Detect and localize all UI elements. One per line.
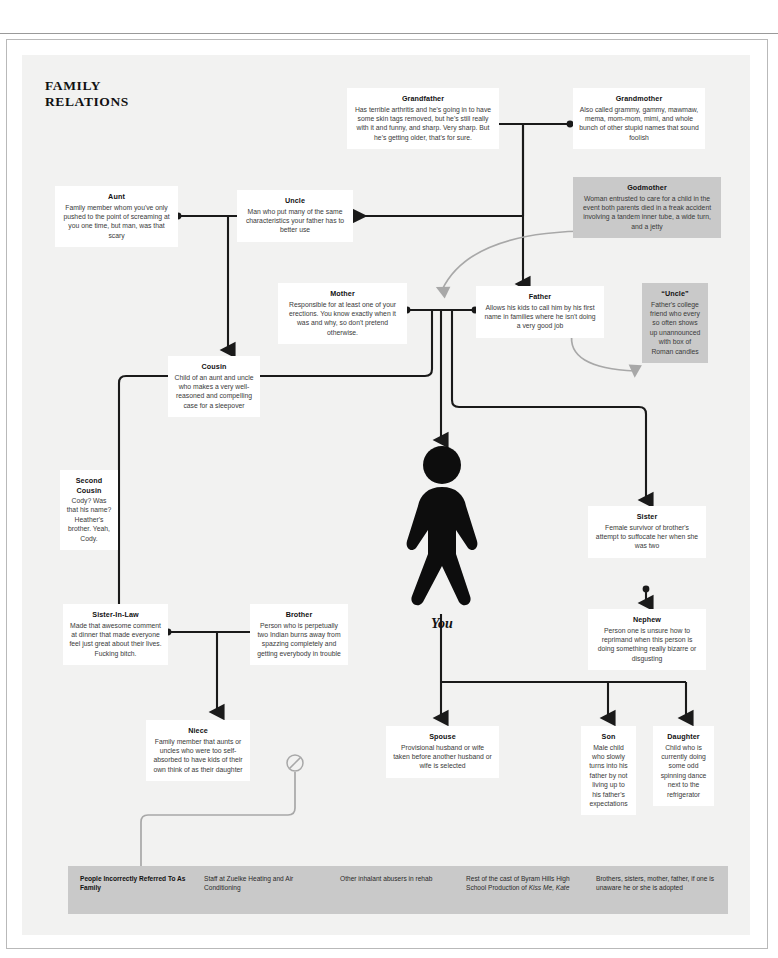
node-sister[interactable]: Sister Female survivor of brother's atte… [588, 506, 706, 558]
legend-bar: People Incorrectly Referred To As Family… [68, 866, 728, 914]
node-desc: Child who is currently doing some odd sp… [659, 743, 708, 799]
node-father[interactable]: Father Allows his kids to call him by hi… [476, 286, 604, 338]
node-godmother[interactable]: Godmother Woman entrusted to care for a … [573, 177, 721, 238]
node-spouse[interactable]: Spouse Provisional husband or wife taken… [386, 726, 499, 778]
node-title: Niece [152, 726, 244, 736]
node-daughter[interactable]: Daughter Child who is currently doing so… [653, 726, 714, 806]
node-desc: Woman entrusted to care for a child in t… [579, 194, 715, 232]
page-title: FAMILYRELATIONS [45, 78, 129, 109]
node-title: “Uncle” [648, 289, 702, 299]
legend-item-1: Other inhalant abusers in rehab [340, 874, 460, 883]
node-title: Grandfather [353, 94, 493, 104]
node-brother[interactable]: Brother Person who is perpetually two In… [250, 604, 348, 665]
node-title: Spouse [392, 732, 493, 742]
node-desc: Made that awesome comment at dinner that… [69, 621, 162, 659]
center-label: You [398, 616, 486, 632]
node-uncle[interactable]: Uncle Man who put many of the same chara… [237, 190, 353, 242]
node-desc: Also called grammy, gammy, mawmaw, mema,… [579, 105, 699, 143]
node-desc: Child of an aunt and uncle who makes a v… [174, 373, 254, 411]
node-title: Aunt [61, 192, 172, 202]
infographic-page: FAMILYRELATIONS Grandfather Has terrible… [0, 0, 778, 958]
node-title: Daughter [659, 732, 708, 742]
node-grandmother[interactable]: Grandmother Also called grammy, gammy, m… [573, 88, 705, 149]
node-desc: Allows his kids to call him by his first… [482, 303, 598, 331]
legend-item-0: Staff at Zuelke Heating and Air Conditio… [204, 874, 330, 893]
node-uncle-quoted[interactable]: “Uncle” Father's college friend who ever… [642, 283, 708, 363]
node-desc: Person one is unsure how to reprimand wh… [594, 626, 700, 664]
legend-item-2: Rest of the cast of Byram Hills High Sch… [466, 874, 590, 893]
node-desc: Cody? Was that his name? Heather's broth… [66, 496, 112, 543]
node-title: Second Cousin [66, 476, 112, 495]
node-desc: Responsible for at least one of your ere… [284, 300, 401, 338]
node-desc: Provisional husband or wife taken before… [392, 743, 493, 771]
node-title: Sister [594, 512, 700, 522]
node-title: Cousin [174, 362, 254, 372]
node-desc: Female survivor of brother's attempt to … [594, 523, 700, 551]
node-title: Nephew [594, 615, 700, 625]
node-desc: Person who is perpetually two Indian bur… [256, 621, 342, 659]
top-divider [0, 33, 778, 34]
node-second-cousin[interactable]: Second Cousin Cody? Was that his name? H… [60, 470, 118, 550]
node-title: Father [482, 292, 598, 302]
node-desc: Family member that aunts or uncles who w… [152, 737, 244, 775]
legend-heading: People Incorrectly Referred To As Family [80, 874, 198, 893]
legend-item-2-italic: Kiss Me, Kate [529, 884, 570, 891]
node-mother[interactable]: Mother Responsible for at least one of y… [278, 283, 407, 344]
node-aunt[interactable]: Aunt Family member whom you've only push… [55, 186, 178, 247]
walking-person-icon [398, 444, 486, 614]
node-title: Sister-In-Law [69, 610, 162, 620]
node-title: Mother [284, 289, 401, 299]
node-grandfather[interactable]: Grandfather Has terrible arthritis and h… [347, 88, 499, 149]
node-son[interactable]: Son Male child who slowly turns into his… [581, 726, 636, 815]
node-desc: Father's college friend who every so oft… [648, 300, 702, 356]
node-niece[interactable]: Niece Family member that aunts or uncles… [146, 720, 250, 781]
node-desc: Male child who slowly turns into his fat… [587, 743, 630, 809]
node-sister-in-law[interactable]: Sister-In-Law Made that awesome comment … [63, 604, 168, 665]
node-title: Godmother [579, 183, 715, 193]
node-title: Brother [256, 610, 342, 620]
node-desc: Man who put many of the same characteris… [243, 207, 347, 235]
node-title: Grandmother [579, 94, 699, 104]
node-cousin[interactable]: Cousin Child of an aunt and uncle who ma… [168, 356, 260, 417]
node-title: Son [587, 732, 630, 742]
node-title: Uncle [243, 196, 347, 206]
node-nephew[interactable]: Nephew Person one is unsure how to repri… [588, 609, 706, 670]
legend-item-3: Brothers, sisters, mother, father, if on… [596, 874, 720, 893]
node-desc: Has terrible arthritis and he's going in… [353, 105, 493, 143]
node-desc: Family member whom you've only pushed to… [61, 203, 172, 241]
